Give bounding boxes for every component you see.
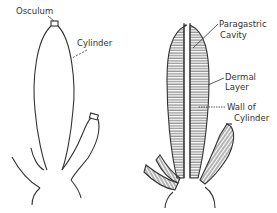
label-wall-of: Wall of bbox=[227, 102, 256, 112]
label-cavity: Cavity bbox=[220, 30, 247, 40]
label-cylinder-wall: Cylinder bbox=[234, 113, 269, 123]
label-dermal: Dermal bbox=[225, 72, 256, 82]
label-cylinder: Cylinder bbox=[77, 38, 112, 48]
osculum-opening bbox=[51, 21, 58, 26]
label-paragastric: Paragastric bbox=[219, 19, 267, 29]
cylinder-left-edge bbox=[34, 26, 51, 170]
right-sponge-section bbox=[144, 23, 234, 208]
label-osculum: Osculum bbox=[16, 6, 53, 16]
label-layer: Layer bbox=[225, 82, 249, 92]
cylinder-right-edge bbox=[58, 26, 74, 170]
left-sponge-external bbox=[12, 21, 99, 205]
